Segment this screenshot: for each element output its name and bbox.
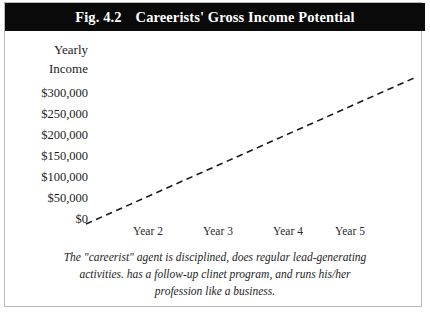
x-axis-tick-labels: Year 2 Year 3 Year 4 Year 5 bbox=[0, 225, 430, 241]
figure-title-bar: Fig. 4.2 Careerists' Gross Income Potent… bbox=[5, 3, 425, 31]
figure-number-label: Fig. 4.2 bbox=[75, 9, 121, 26]
figure-container: Fig. 4.2 Careerists' Gross Income Potent… bbox=[0, 0, 430, 314]
caption-line: profession like a business. bbox=[40, 283, 390, 300]
chart-plot-area: Yearly Income $300,000 $250,000 $200,000… bbox=[0, 31, 430, 246]
caption-line: The "careerist" agent is disciplined, do… bbox=[40, 249, 390, 266]
income-trend-line bbox=[0, 31, 430, 246]
figure-caption: The "careerist" agent is disciplined, do… bbox=[40, 249, 390, 300]
x-tick-label: Year 4 bbox=[273, 225, 303, 237]
figure-title-text: Fig. 4.2 Careerists' Gross Income Potent… bbox=[75, 9, 354, 26]
x-tick-label: Year 2 bbox=[133, 225, 163, 237]
x-tick-label: Year 3 bbox=[203, 225, 233, 237]
caption-line: activities. has a follow-up clinet progr… bbox=[40, 266, 390, 283]
x-tick-label: Year 5 bbox=[335, 225, 365, 237]
figure-title: Careerists' Gross Income Potential bbox=[136, 9, 355, 26]
